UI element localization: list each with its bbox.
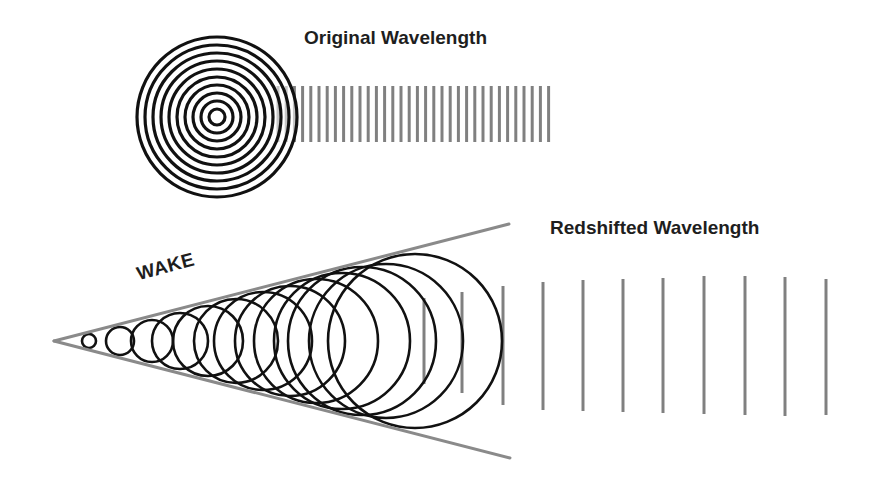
original-concentric-rings	[137, 37, 297, 197]
original-wavelength-label: Original Wavelength	[304, 27, 487, 49]
redshift-diagram	[0, 0, 873, 490]
wake-circle	[328, 254, 502, 428]
redshifted-wavelength-label: Redshifted Wavelength	[550, 217, 759, 239]
wake-circle	[254, 279, 378, 403]
cone-lower-edge	[54, 341, 510, 458]
wake-circle	[82, 334, 96, 348]
cone-upper-edge	[54, 224, 509, 341]
wake-circle	[309, 264, 463, 418]
original-wave-lines	[278, 86, 549, 142]
